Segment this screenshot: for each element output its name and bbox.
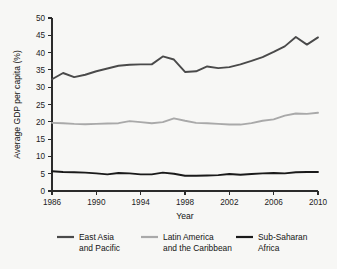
legend-label: Sub-Saharan bbox=[258, 232, 308, 242]
legend-label: Africa bbox=[258, 243, 280, 253]
y-axis-title: Average GDP per capita (%) bbox=[12, 50, 22, 159]
y-tick-label: 35 bbox=[36, 66, 46, 75]
chart-figure: 05101520253035404550 1986199019941998200… bbox=[0, 0, 337, 269]
y-tick-group: 05101520253035404550 bbox=[36, 14, 52, 196]
y-tick-label: 10 bbox=[36, 152, 46, 161]
y-tick-label: 5 bbox=[40, 170, 45, 179]
x-tick-label: 1998 bbox=[176, 198, 195, 207]
y-axis: 05101520253035404550 bbox=[36, 14, 52, 196]
legend-label: and the Caribbean bbox=[163, 243, 232, 253]
y-tick-label: 40 bbox=[36, 49, 46, 58]
x-tick-label: 1990 bbox=[87, 198, 106, 207]
line-chart: 05101520253035404550 1986199019941998200… bbox=[0, 0, 337, 269]
x-axis-title: Year bbox=[176, 211, 194, 221]
x-tick-label: 2006 bbox=[265, 198, 284, 207]
chart-legend: East Asiaand PacificLatin Americaand the… bbox=[57, 232, 308, 253]
x-tick-label: 1994 bbox=[132, 198, 151, 207]
y-tick-label: 20 bbox=[36, 118, 46, 127]
legend-label: and Pacific bbox=[79, 243, 120, 253]
x-tick-label: 2010 bbox=[309, 198, 328, 207]
y-tick-label: 30 bbox=[36, 83, 46, 92]
x-axis: 1986199019941998200220062010 bbox=[43, 191, 328, 207]
x-tick-label: 2002 bbox=[220, 198, 239, 207]
x-tick-label: 1986 bbox=[43, 198, 62, 207]
y-tick-label: 25 bbox=[36, 101, 46, 110]
y-tick-label: 50 bbox=[36, 14, 46, 23]
series-line bbox=[52, 171, 318, 176]
y-tick-label: 15 bbox=[36, 135, 46, 144]
legend-label: East Asia bbox=[79, 232, 114, 242]
x-tick-group: 1986199019941998200220062010 bbox=[43, 191, 328, 207]
series-group bbox=[52, 37, 318, 176]
series-line bbox=[52, 113, 318, 125]
y-tick-label: 45 bbox=[36, 31, 46, 40]
y-tick-label: 0 bbox=[40, 187, 45, 196]
series-line bbox=[52, 37, 318, 79]
legend-label: Latin America bbox=[163, 232, 214, 242]
